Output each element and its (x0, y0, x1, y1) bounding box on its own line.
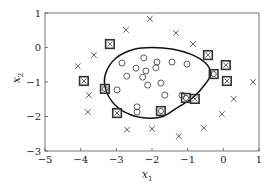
y-tick-label: −3 (26, 146, 41, 157)
x-tick-label: −1 (180, 154, 195, 165)
circle-outline (145, 82, 151, 88)
scatter-chart: −5−4−3−2−101 −3−2−101 x1 x2 (0, 0, 276, 187)
circle-outline (158, 108, 163, 113)
data-point-x (91, 52, 97, 58)
data-point-o (114, 87, 120, 93)
y-tick-label: −2 (26, 111, 41, 122)
data-point-x (147, 16, 153, 22)
circle-outline (153, 65, 159, 71)
x-tick-label: 1 (256, 154, 262, 165)
data-point-o (145, 82, 151, 88)
x-tick-label: −2 (145, 154, 160, 165)
data-point-boxed-x (204, 51, 213, 60)
y-tick-label: 1 (35, 8, 41, 19)
data-points-layer (75, 16, 256, 139)
data-point-x (219, 111, 225, 117)
data-point-x (124, 127, 130, 133)
circle-outline (133, 65, 139, 71)
circle-outline (124, 73, 130, 79)
circle-outline (162, 92, 168, 98)
data-point-boxed-x (222, 61, 231, 70)
data-point-o (154, 59, 160, 65)
x-axis-label-subscript: 1 (148, 175, 152, 183)
x-axis-label: x1 (142, 168, 153, 183)
circle-outline (114, 87, 120, 93)
data-point-boxed-o (157, 107, 166, 116)
data-point-x (86, 92, 92, 98)
circle-outline (169, 59, 175, 65)
circle-outline (183, 95, 188, 100)
circle-outline (140, 74, 146, 80)
y-axis-label: x2 (10, 73, 25, 84)
data-point-x (75, 63, 81, 69)
data-point-o (184, 61, 190, 67)
data-point-o (133, 65, 139, 71)
x-tick-label: −4 (73, 154, 88, 165)
data-point-x (176, 133, 182, 139)
x-axis-ticks: −5−4−3−2−101 (38, 148, 263, 165)
data-point-boxed-x (113, 109, 122, 118)
square-outline (157, 107, 166, 116)
x-tick-label: −3 (109, 154, 124, 165)
data-point-x (85, 109, 91, 115)
data-point-o (124, 73, 130, 79)
data-point-x (201, 125, 207, 131)
circle-outline (158, 80, 164, 86)
data-point-o (143, 68, 149, 74)
circle-outline (184, 61, 190, 67)
data-point-x (231, 96, 237, 102)
data-point-o (169, 59, 175, 65)
plot-frame (45, 13, 259, 151)
data-point-x (149, 126, 155, 132)
data-point-o (162, 92, 168, 98)
data-point-x (173, 30, 179, 36)
circle-outline (119, 60, 125, 66)
data-point-x (250, 79, 256, 85)
data-point-o (158, 80, 164, 86)
data-point-o (140, 74, 146, 80)
data-point-o (153, 65, 159, 71)
data-point-boxed-x (80, 77, 89, 86)
data-point-o (119, 60, 125, 66)
y-tick-label: 0 (35, 42, 41, 53)
plot-area-border (45, 13, 259, 151)
data-point-boxed-x (106, 40, 115, 49)
x-tick-label: 0 (220, 154, 226, 165)
circle-outline (143, 68, 149, 74)
circle-outline (141, 55, 147, 61)
data-point-x (123, 27, 129, 33)
data-point-o (141, 55, 147, 61)
data-point-x (190, 41, 196, 47)
y-tick-label: −1 (26, 77, 41, 88)
circle-outline (154, 59, 160, 65)
data-point-boxed-x (223, 77, 232, 86)
circle-outline (211, 71, 216, 76)
y-axis-label-subscript: 2 (17, 73, 25, 77)
